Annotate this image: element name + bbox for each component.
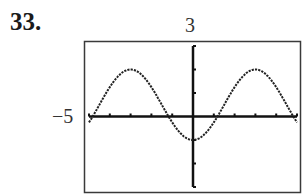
graph-window bbox=[0, 0, 307, 195]
axes bbox=[89, 46, 297, 187]
